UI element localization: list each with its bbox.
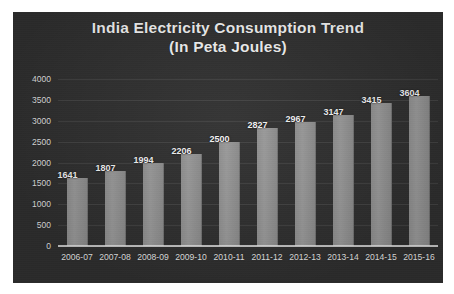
bar: 3147 xyxy=(333,115,354,246)
bar: 1641 xyxy=(67,178,88,247)
bar-value-label: 3604 xyxy=(400,88,420,98)
bar: 2206 xyxy=(181,154,202,246)
chart-title-line1: India Electricity Consumption Trend xyxy=(92,19,364,36)
y-axis-tick-label: 1500 xyxy=(32,178,51,188)
x-axis-tick-label: 2012-13 xyxy=(289,252,321,262)
y-axis-tick-label: 1000 xyxy=(32,199,51,209)
bar-chart-figure: India Electricity Consumption Trend (In … xyxy=(13,12,443,283)
x-axis-tick-label: 2013-14 xyxy=(327,252,359,262)
y-axis-tick-label: 500 xyxy=(37,220,51,230)
plot-area: 05001000150020002500300035004000 1641180… xyxy=(58,79,438,246)
bar-value-label: 2500 xyxy=(210,134,230,144)
x-axis-tick-label: 2009-10 xyxy=(175,252,207,262)
x-axis-tick-label: 2006-07 xyxy=(61,252,93,262)
chart-title: India Electricity Consumption Trend (In … xyxy=(13,18,443,56)
y-axis-tick-label: 2500 xyxy=(32,137,51,147)
bar: 3604 xyxy=(409,96,430,246)
bar-value-label: 1641 xyxy=(58,170,78,180)
x-axis-tick-label: 2015-16 xyxy=(403,252,435,262)
bar: 1994 xyxy=(143,163,164,246)
bar-value-label: 2827 xyxy=(248,120,268,130)
y-axis-tick-label: 2000 xyxy=(32,158,51,168)
bar-value-label: 3147 xyxy=(324,107,344,117)
bar-value-label: 3415 xyxy=(362,95,382,105)
y-axis-tick-label: 4000 xyxy=(32,74,51,84)
x-axis-tick-label: 2007-08 xyxy=(99,252,131,262)
bar: 2500 xyxy=(219,142,240,246)
x-axis-tick-label: 2010-11 xyxy=(214,252,245,262)
bar: 2967 xyxy=(295,122,316,246)
bar: 2827 xyxy=(257,128,278,246)
x-axis-tick-label: 2008-09 xyxy=(137,252,169,262)
x-axis-tick-label: 2011-12 xyxy=(252,252,283,262)
bar-value-label: 2206 xyxy=(172,146,192,156)
chart-title-line2: (In Peta Joules) xyxy=(13,37,443,56)
y-axis-tick-label: 0 xyxy=(46,241,51,251)
x-axis-tick-label: 2014-15 xyxy=(365,252,397,262)
bar-value-label: 1807 xyxy=(96,163,116,173)
bar: 1807 xyxy=(105,171,126,246)
y-axis-tick-label: 3500 xyxy=(32,95,51,105)
bar-value-label: 2967 xyxy=(286,114,306,124)
axis-baseline xyxy=(58,245,438,247)
y-axis-tick-label: 3000 xyxy=(32,116,51,126)
bar-value-label: 1994 xyxy=(134,155,154,165)
bar: 3415 xyxy=(371,103,392,246)
gridline xyxy=(58,79,438,80)
